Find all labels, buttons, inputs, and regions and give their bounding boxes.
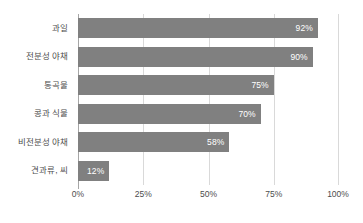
bar-segment[interactable]: 90% (78, 47, 313, 67)
bar-value-label: 90% (290, 52, 307, 61)
plot-area: 92% 90% 75% 70% 58% (78, 14, 339, 185)
bar-value-label: 70% (238, 109, 255, 118)
category-label: 전분성 야채 (26, 52, 73, 61)
category-row: 견과류, 씨 (0, 157, 73, 186)
bar-row: 90% (78, 43, 339, 72)
bar-segment[interactable]: 12% (78, 161, 109, 181)
category-row: 콩과 식물 (0, 100, 73, 129)
category-row: 전분성 야채 (0, 43, 73, 72)
bar-row: 92% (78, 14, 339, 43)
tick-label: 25% (135, 190, 152, 199)
bar-row: 75% (78, 71, 339, 100)
category-row: 통곡물 (0, 71, 73, 100)
bar-row: 58% (78, 128, 339, 157)
category-row: 비전분성 야채 (0, 128, 73, 157)
tick-label: 100% (327, 190, 349, 199)
tick-label: 50% (200, 190, 217, 199)
bar-row: 12% (78, 157, 339, 186)
category-axis: 과일 전분성 야채 통곡물 콩과 식물 비전분성 야채 견과류, 씨 (0, 14, 73, 185)
bar-segment[interactable]: 92% (78, 18, 318, 38)
category-label: 과일 (52, 24, 73, 33)
category-label: 비전분성 야채 (18, 138, 73, 147)
tick-label: 0% (72, 190, 84, 199)
bar-value-label: 58% (207, 138, 224, 147)
bar-segment[interactable]: 75% (78, 75, 274, 95)
tick-label: 75% (265, 190, 282, 199)
bars-layer: 92% 90% 75% 70% 58% (78, 14, 339, 185)
category-label: 통곡물 (44, 81, 73, 90)
value-axis: 0% 25% 50% 75% 100% (78, 190, 339, 206)
bar-value-label: 75% (251, 81, 268, 90)
category-label: 콩과 식물 (34, 109, 73, 118)
bar-segment[interactable]: 70% (78, 104, 261, 124)
bar-value-label: 92% (296, 24, 313, 33)
bar-row: 70% (78, 100, 339, 129)
bar-chart: 92% 90% 75% 70% 58% (0, 0, 363, 223)
category-label: 견과류, 씨 (31, 166, 73, 175)
bar-value-label: 12% (87, 166, 104, 175)
bar-segment[interactable]: 58% (78, 132, 229, 152)
category-row: 과일 (0, 14, 73, 43)
